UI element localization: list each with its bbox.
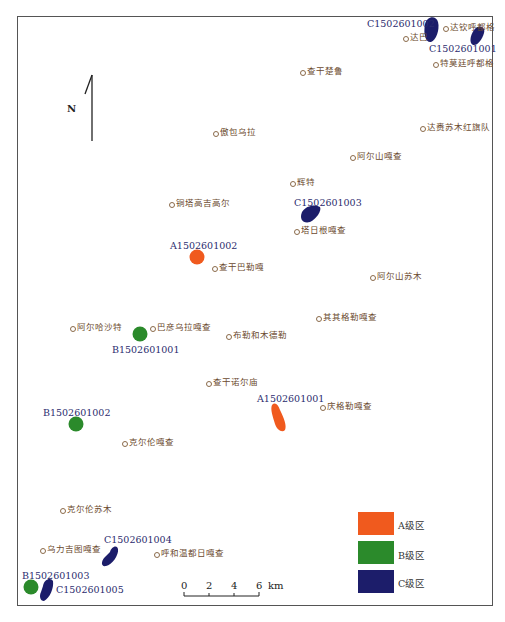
- zone-a-a1502601001[interactable]: [271, 404, 285, 432]
- zone-b-b1502601002[interactable]: [69, 417, 84, 432]
- place-name: 傲包乌拉: [220, 127, 256, 137]
- legend-swatch-b: [358, 541, 394, 564]
- zone-b-b1502601001[interactable]: [133, 327, 148, 342]
- place-label: 其其格勒嘎查: [316, 312, 377, 322]
- place-label: 达钦呼都格: [443, 22, 495, 32]
- place-label: 乌力吉图嘎查: [40, 544, 101, 554]
- scale-tick-0: 0: [181, 580, 187, 591]
- legend-swatch-a: [358, 512, 394, 535]
- place-name: 达钦呼都格: [450, 22, 495, 32]
- place-name: 阿尔哈沙特: [77, 322, 122, 332]
- settlement-point-icon: [212, 266, 218, 272]
- place-label: 铜塔高吉高尔: [169, 198, 230, 208]
- settlement-point-icon: [294, 229, 300, 235]
- settlement-point-icon: [316, 316, 322, 322]
- map-features: [0, 0, 505, 622]
- zone-c-c1502601005[interactable]: [40, 579, 53, 601]
- settlement-point-icon: [443, 26, 449, 32]
- place-label: 傲包乌拉: [213, 127, 256, 137]
- place-label: 呼和温都日嘎查: [154, 548, 224, 558]
- scale-tick-2: 2: [206, 580, 212, 591]
- place-name: 克尔伦嘎查: [129, 437, 174, 447]
- scale-tick-4: 4: [231, 580, 237, 591]
- place-name: 达赉苏木红旗队: [427, 122, 490, 132]
- place-label: 庆格勒嘎查: [320, 401, 372, 411]
- place-label: 克尔伦苏木: [60, 504, 112, 514]
- place-label: 特莫廷呼都格: [433, 58, 494, 68]
- settlement-point-icon: [169, 202, 175, 208]
- zone-code-label: C1502601005: [56, 584, 124, 595]
- place-name: 查干楚鲁: [307, 66, 343, 76]
- zone-b-b1502601003[interactable]: [24, 580, 39, 595]
- place-label: 阿尔哈沙特: [70, 322, 122, 332]
- zone-code-label: B1502601003: [22, 570, 89, 581]
- settlement-point-icon: [70, 326, 76, 332]
- scale-unit: km: [268, 580, 284, 591]
- settlement-point-icon: [300, 70, 306, 76]
- place-label: 辉特: [290, 177, 315, 187]
- place-label: 塔日根嘎查: [294, 225, 346, 235]
- place-label: 布勒和木德勒: [226, 330, 287, 340]
- zone-c-c1502601004[interactable]: [102, 546, 118, 566]
- place-name: 阿尔山嘎查: [357, 151, 402, 161]
- zone-code-label: C1502601001: [429, 43, 497, 54]
- place-name: 达巴: [410, 32, 428, 42]
- settlement-point-icon: [370, 275, 376, 281]
- place-name: 呼和温都日嘎查: [161, 548, 224, 558]
- place-label: 达赉苏木红旗队: [420, 122, 490, 132]
- place-name: 乌力吉图嘎查: [47, 544, 101, 554]
- legend-label-a: A级区: [398, 518, 425, 532]
- place-label: 查干楚鲁: [300, 66, 343, 76]
- scale-bar: [184, 592, 259, 596]
- legend-label-b: B级区: [398, 548, 425, 562]
- place-label: 阿尔山苏木: [370, 271, 422, 281]
- north-arrow-icon: [85, 75, 92, 141]
- place-name: 辉特: [297, 177, 315, 187]
- settlement-point-icon: [154, 552, 160, 558]
- place-name: 查干诺尔庙: [213, 377, 258, 387]
- scale-tick-6: 6: [256, 580, 262, 591]
- place-label: 克尔伦嘎查: [122, 437, 174, 447]
- place-name: 特莫廷呼都格: [440, 58, 494, 68]
- settlement-point-icon: [122, 441, 128, 447]
- settlement-point-icon: [206, 381, 212, 387]
- zone-code-label: C1502601002: [367, 18, 435, 29]
- zone-code-label: A1502601002: [170, 240, 237, 251]
- settlement-point-icon: [433, 62, 439, 68]
- place-name: 布勒和木德勒: [233, 330, 287, 340]
- place-name: 其其格勒嘎查: [323, 312, 377, 322]
- north-label: N: [67, 103, 76, 114]
- place-name: 庆格勒嘎查: [327, 401, 372, 411]
- legend-swatch-c: [358, 570, 394, 593]
- place-name: 查干巴勒嘎: [219, 262, 264, 272]
- zone-code-label: B1502601002: [43, 407, 110, 418]
- place-label: 达巴: [403, 32, 428, 42]
- place-label: 阿尔山嘎查: [350, 151, 402, 161]
- zone-a-a1502601002[interactable]: [190, 250, 205, 265]
- place-name: 巴彦乌拉嘎查: [157, 322, 211, 332]
- place-name: 阿尔山苏木: [377, 271, 422, 281]
- settlement-point-icon: [150, 326, 156, 332]
- settlement-point-icon: [403, 36, 409, 42]
- settlement-point-icon: [420, 126, 426, 132]
- settlement-point-icon: [60, 508, 66, 514]
- place-name: 克尔伦苏木: [67, 504, 112, 514]
- settlement-point-icon: [350, 155, 356, 161]
- settlement-point-icon: [320, 405, 326, 411]
- place-name: 铜塔高吉高尔: [176, 198, 230, 208]
- place-label: 巴彦乌拉嘎查: [150, 322, 211, 332]
- place-name: 塔日根嘎查: [301, 225, 346, 235]
- zone-code-label: C1502601003: [294, 197, 362, 208]
- zone-code-label: C1502601004: [104, 534, 172, 545]
- settlement-point-icon: [290, 181, 296, 187]
- settlement-point-icon: [213, 131, 219, 137]
- place-label: 查干巴勒嘎: [212, 262, 264, 272]
- zone-code-label: A1502601001: [257, 393, 324, 404]
- settlement-point-icon: [40, 548, 46, 554]
- zone-code-label: B1502601001: [112, 344, 179, 355]
- settlement-point-icon: [226, 334, 232, 340]
- legend-label-c: C级区: [398, 576, 425, 590]
- place-label: 查干诺尔庙: [206, 377, 258, 387]
